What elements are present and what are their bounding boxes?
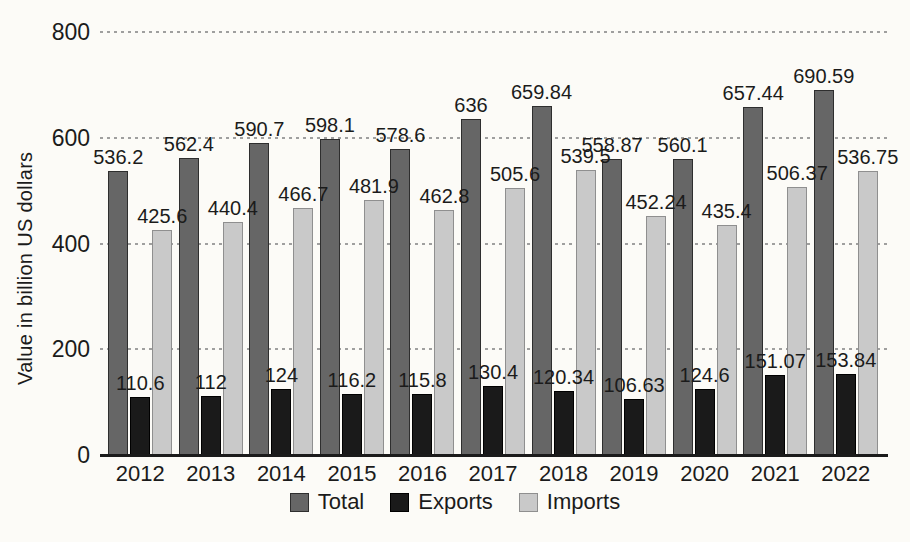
plot-area: 02004006008002012536.2110.6425.62013562.… <box>0 0 910 542</box>
bar-total-2022 <box>814 90 834 455</box>
bar-exports-2018 <box>554 391 574 455</box>
value-label-total-2019: 558.87 <box>581 133 642 157</box>
y-tick-0: 0 <box>0 442 90 468</box>
value-label-exports-2015: 116.2 <box>328 368 377 392</box>
x-tick-2016: 2016 <box>398 461 447 487</box>
bar-imports-2014 <box>293 208 313 455</box>
bar-imports-2018 <box>576 170 596 455</box>
bar-total-2012 <box>108 171 128 455</box>
x-tick-2020: 2020 <box>680 461 729 487</box>
value-label-imports-2015: 481.9 <box>349 174 399 198</box>
bar-total-2017 <box>461 119 481 455</box>
y-tick-200: 200 <box>0 336 90 362</box>
legend-label-imports: Imports <box>547 489 620 515</box>
value-label-total-2021: 657.44 <box>723 81 784 105</box>
value-label-imports-2014: 466.7 <box>278 182 328 206</box>
bar-total-2013 <box>179 158 199 455</box>
bar-imports-2013 <box>223 222 243 455</box>
value-label-imports-2012: 425.6 <box>137 204 187 228</box>
value-label-exports-2014: 124 <box>265 363 298 387</box>
value-label-imports-2017: 505.6 <box>490 162 540 186</box>
gridline-800 <box>100 31 888 33</box>
value-label-imports-2022: 536.75 <box>837 145 898 169</box>
value-label-exports-2016: 115.8 <box>398 368 447 392</box>
value-label-total-2018: 659.84 <box>511 80 572 104</box>
bar-exports-2020 <box>695 389 715 455</box>
bar-exports-2017 <box>483 386 503 455</box>
bar-imports-2019 <box>646 216 666 455</box>
bar-imports-2021 <box>787 187 807 455</box>
bar-imports-2016 <box>434 210 454 455</box>
value-label-total-2020: 560.1 <box>658 133 708 157</box>
bar-imports-2012 <box>152 230 172 455</box>
bar-exports-2021 <box>765 375 785 455</box>
bar-total-2014 <box>249 143 269 455</box>
legend: Total Exports Imports <box>0 489 910 515</box>
value-label-total-2013: 562.4 <box>164 132 214 156</box>
legend-item-exports: Exports <box>390 489 493 515</box>
y-tick-800: 800 <box>0 19 90 45</box>
value-label-imports-2013: 440.4 <box>208 196 258 220</box>
x-tick-2017: 2017 <box>469 461 518 487</box>
bar-total-2019 <box>602 159 622 455</box>
bar-total-2021 <box>743 107 763 455</box>
value-label-exports-2012: 110.6 <box>116 371 165 395</box>
value-label-total-2022: 690.59 <box>793 64 854 88</box>
legend-swatch-imports-icon <box>519 493 538 512</box>
value-label-total-2017: 636 <box>454 93 487 117</box>
legend-swatch-total-icon <box>290 493 309 512</box>
bar-exports-2022 <box>836 374 856 455</box>
bar-exports-2012 <box>130 397 150 455</box>
bar-total-2018 <box>532 106 552 455</box>
value-label-exports-2021: 151.07 <box>745 349 806 373</box>
value-label-exports-2018: 120.34 <box>533 365 594 389</box>
x-tick-2012: 2012 <box>116 461 165 487</box>
value-label-exports-2022: 153.84 <box>815 348 876 372</box>
bar-exports-2016 <box>412 394 432 455</box>
trade-bar-chart: Value in billion US dollars 020040060080… <box>0 0 910 542</box>
value-label-exports-2013: 112 <box>195 370 227 394</box>
bar-exports-2015 <box>342 394 362 455</box>
value-label-imports-2019: 452.24 <box>625 190 686 214</box>
y-tick-400: 400 <box>0 231 90 257</box>
legend-swatch-exports-icon <box>390 493 409 512</box>
x-tick-2021: 2021 <box>751 461 800 487</box>
x-tick-2022: 2022 <box>821 461 870 487</box>
x-tick-2013: 2013 <box>186 461 235 487</box>
legend-item-imports: Imports <box>519 489 620 515</box>
value-label-imports-2016: 462.8 <box>419 184 469 208</box>
value-label-total-2015: 598.1 <box>305 113 355 137</box>
bar-exports-2013 <box>201 396 221 455</box>
value-label-total-2016: 578.6 <box>375 123 425 147</box>
value-label-total-2014: 590.7 <box>234 117 284 141</box>
legend-label-total: Total <box>318 489 364 515</box>
bar-imports-2015 <box>364 200 384 455</box>
bar-imports-2020 <box>717 225 737 455</box>
value-label-imports-2021: 506.37 <box>767 161 828 185</box>
bar-exports-2014 <box>271 389 291 455</box>
x-tick-2018: 2018 <box>539 461 588 487</box>
x-tick-2019: 2019 <box>610 461 659 487</box>
bar-exports-2019 <box>624 399 644 455</box>
bar-imports-2022 <box>858 171 878 455</box>
value-label-total-2012: 536.2 <box>93 145 143 169</box>
x-tick-2014: 2014 <box>257 461 306 487</box>
value-label-exports-2020: 124.6 <box>680 363 730 387</box>
x-tick-2015: 2015 <box>327 461 376 487</box>
value-label-exports-2019: 106.63 <box>603 373 664 397</box>
legend-label-exports: Exports <box>418 489 493 515</box>
bar-imports-2017 <box>505 188 525 455</box>
value-label-imports-2020: 435.4 <box>702 199 752 223</box>
gridline-400 <box>100 243 888 245</box>
value-label-exports-2017: 130.4 <box>468 360 518 384</box>
gridline-600 <box>100 137 888 139</box>
y-tick-600: 600 <box>0 125 90 151</box>
x-axis-line <box>100 454 888 457</box>
legend-item-total: Total <box>290 489 364 515</box>
